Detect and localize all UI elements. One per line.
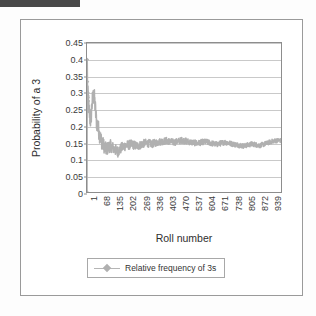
x-tick-label: 872 <box>261 181 270 196</box>
series-marker <box>87 58 89 62</box>
y-tick-label: 0.25 <box>65 106 83 115</box>
x-tick-label: 738 <box>235 181 244 196</box>
series-polyline <box>87 60 281 192</box>
x-tick-label: 269 <box>143 181 152 196</box>
x-tick-label: 68 <box>103 186 112 196</box>
legend-label: Relative frequency of 3s <box>125 263 216 273</box>
y-tick-label: 0.1 <box>70 156 83 165</box>
chart-frame: Probability of a 3 00.050.10.150.20.250.… <box>20 19 303 296</box>
x-tick-label: 537 <box>195 181 204 196</box>
x-tick-label: 1 <box>90 191 99 196</box>
y-tick-label: 0.2 <box>70 122 83 131</box>
legend-marker-icon <box>94 264 120 273</box>
x-tick-label: 403 <box>169 181 178 196</box>
y-tick-label: 0.4 <box>70 55 83 64</box>
y-tick-label: 0.45 <box>65 39 83 48</box>
y-axis-title-text: Probability of a 3 <box>30 78 42 156</box>
series-marker <box>87 91 90 95</box>
x-tick-label: 202 <box>129 181 138 196</box>
y-axis-title: Probability of a 3 <box>29 42 43 193</box>
page-background: Probability of a 3 00.050.10.150.20.250.… <box>0 0 316 316</box>
y-tick-label: 0 <box>78 190 83 199</box>
legend-diamond-icon <box>103 264 111 272</box>
chart-legend: Relative frequency of 3s <box>87 258 225 278</box>
y-tick-label: 0.35 <box>65 72 83 81</box>
x-tick-label: 336 <box>156 181 165 196</box>
x-axis-ticks: 1681352022693364034705376046717388058729… <box>86 194 282 234</box>
y-tick-label: 0.05 <box>65 173 83 182</box>
series-line-chart <box>87 43 281 192</box>
header-bar <box>0 0 80 7</box>
x-tick-label: 671 <box>221 181 230 196</box>
x-tick-label: 604 <box>208 181 217 196</box>
x-axis-title: Roll number <box>86 232 282 244</box>
x-tick-label: 939 <box>274 181 283 196</box>
chart-area: Probability of a 3 00.050.10.150.20.250.… <box>21 20 302 295</box>
y-tick-label: 0.3 <box>70 89 83 98</box>
x-tick-label: 470 <box>182 181 191 196</box>
x-tick-label: 135 <box>116 181 125 196</box>
plot-area: 00.050.10.150.20.250.30.350.40.45 <box>86 42 282 193</box>
x-tick-label: 805 <box>248 181 257 196</box>
y-tick-label: 0.15 <box>65 139 83 148</box>
